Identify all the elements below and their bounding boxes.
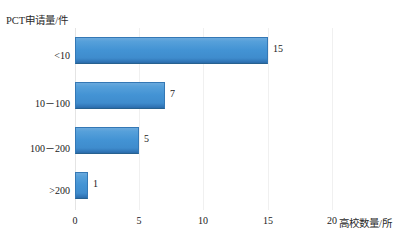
x-tick-label-4: 20 [327, 215, 337, 226]
bar-value-1: 7 [170, 88, 175, 99]
bar-3[interactable] [75, 172, 88, 199]
bar-value-0: 15 [273, 43, 283, 54]
bar-2[interactable] [75, 127, 139, 154]
y-axis-tick-labels: <10 10－100 100－200 >200 [0, 28, 70, 210]
y-axis-title: PCT申请量/件 [6, 12, 68, 27]
y-tick-label-3: >200 [2, 185, 70, 196]
plot-area: 15 7 5 1 [75, 28, 333, 210]
x-tick-label-2: 10 [198, 215, 208, 226]
x-tick-label-3: 15 [263, 215, 273, 226]
x-axis-title: 高校数量/所 [339, 215, 392, 230]
x-axis-tick-labels: 0 5 10 15 20 [75, 210, 333, 230]
bar-1[interactable] [75, 82, 165, 109]
x-tick-label-1: 5 [137, 215, 142, 226]
bar-value-2: 5 [144, 133, 149, 144]
y-tick-label-1: 10－100 [2, 95, 70, 110]
bar-value-3: 1 [93, 178, 98, 189]
bar-row: 15 [75, 28, 333, 72]
bar-row: 1 [75, 163, 333, 207]
x-tick-label-0: 0 [73, 215, 78, 226]
bar-chart: PCT申请量/件 <10 10－100 100－200 >200 15 7 5 … [0, 0, 417, 247]
y-tick-label-2: 100－200 [2, 140, 70, 155]
y-tick-label-0: <10 [2, 50, 70, 61]
bar-row: 7 [75, 73, 333, 117]
bar-0[interactable] [75, 37, 268, 64]
bar-row: 5 [75, 118, 333, 162]
